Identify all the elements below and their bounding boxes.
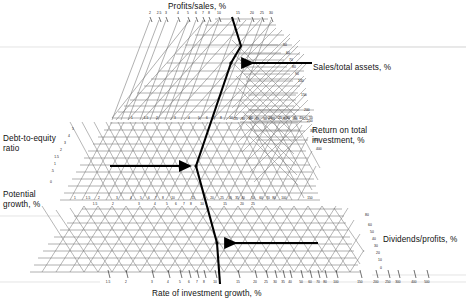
tick-label: 25 bbox=[260, 11, 264, 15]
grid-upper-right-lattice bbox=[232, 28, 312, 185]
tick-label: 8 bbox=[220, 116, 222, 120]
tick-label: 70 bbox=[316, 280, 320, 284]
tick-label: 0 bbox=[50, 180, 52, 184]
tick-label: 60 bbox=[259, 196, 263, 200]
tick-label: 7 bbox=[196, 280, 198, 284]
tick-label: 40 bbox=[288, 280, 292, 284]
tick-label: 1 bbox=[131, 116, 133, 120]
tick-label: 2 bbox=[149, 11, 151, 15]
tick-label: 35 bbox=[281, 280, 285, 284]
tick-label: 3 bbox=[64, 141, 66, 145]
tick-label: 50 bbox=[309, 116, 313, 120]
tick-label: 90 bbox=[295, 72, 299, 76]
tick-label: 5 bbox=[166, 202, 168, 206]
axis-label-potential-growth: Potential growth, % bbox=[3, 190, 40, 210]
axis-label-return-on-investment: Return on total investment, % bbox=[312, 126, 367, 146]
tick-label: 300 bbox=[395, 280, 401, 284]
tick-label: 30 bbox=[273, 280, 277, 284]
tick-label: 30 bbox=[228, 196, 232, 200]
tick-label: 50 bbox=[251, 196, 255, 200]
tick-label: 200 bbox=[304, 108, 310, 112]
tick-label: 20 bbox=[268, 116, 272, 120]
tick-label: 25 bbox=[251, 202, 255, 206]
tick-label: 8 bbox=[190, 202, 192, 206]
tick-label: 60 bbox=[271, 117, 275, 121]
tick-label: 4 bbox=[68, 134, 70, 138]
tick-label: 500 bbox=[424, 280, 430, 284]
tick-label: 15 bbox=[236, 11, 240, 15]
axis-label-profits-sales: Profits/sales, % bbox=[168, 2, 226, 12]
tick-label: 15 bbox=[223, 202, 227, 206]
tick-label: 400 bbox=[411, 280, 417, 284]
tick-label: 7 bbox=[183, 202, 185, 206]
axis-label-rate-of-investment-growth: Rate of investment growth, % bbox=[152, 289, 262, 299]
tick-label: 40 bbox=[372, 237, 376, 241]
tick-label: 50 bbox=[263, 117, 267, 121]
tick-label: 100 bbox=[333, 280, 339, 284]
tick-label: 50 bbox=[283, 43, 287, 47]
tick-label: 3 bbox=[151, 280, 153, 284]
tick-label: 0 bbox=[380, 266, 382, 270]
tick-label: 10 bbox=[213, 280, 217, 284]
tick-label: 80 bbox=[272, 196, 276, 200]
tick-label: 35 bbox=[235, 196, 239, 200]
tick-label: 2 bbox=[112, 202, 114, 206]
tick-label: 150 bbox=[307, 196, 313, 200]
tick-label: 4 bbox=[188, 116, 190, 120]
tick-label: 5 bbox=[198, 116, 200, 120]
tick-label: 4 bbox=[167, 280, 169, 284]
tick-label: 1.5 bbox=[144, 116, 149, 120]
axis-label-sales-total-assets: Sales/total assets, % bbox=[313, 63, 391, 73]
tick-label: 30 bbox=[269, 11, 273, 15]
tick-label: 40 bbox=[241, 196, 245, 200]
tick-label: 6 bbox=[206, 116, 208, 120]
tick-label: 50 bbox=[299, 280, 303, 284]
tick-label: 80 bbox=[323, 280, 327, 284]
tick-label: 6 bbox=[148, 196, 150, 200]
tick-label: 6 bbox=[188, 280, 190, 284]
tick-label: 2 bbox=[125, 280, 127, 284]
tick-label: 70 bbox=[289, 58, 293, 62]
tick-label: 7 bbox=[155, 196, 157, 200]
tick-label: 20 bbox=[376, 251, 380, 255]
tick-label: 1.5 bbox=[86, 196, 91, 200]
tick-label: 15 bbox=[191, 196, 195, 200]
tick-label: 30 bbox=[286, 116, 290, 120]
tick-label: 60 bbox=[368, 223, 372, 227]
tickmarks-top bbox=[150, 17, 273, 22]
nomogram-figure: 22.53456781015202530 5060708090100150200… bbox=[0, 0, 466, 299]
tick-label: .5 bbox=[51, 169, 54, 173]
tick-label: 15 bbox=[236, 280, 240, 284]
tick-label: 5 bbox=[72, 127, 74, 131]
tick-label: 200 bbox=[373, 280, 379, 284]
tick-label: 3 bbox=[138, 202, 140, 206]
tick-label: 25 bbox=[220, 196, 224, 200]
tick-label: 100 bbox=[281, 196, 287, 200]
tick-labels-dividends-profits: 806050403020100 bbox=[365, 213, 382, 270]
tick-label: 1 bbox=[54, 162, 56, 166]
tick-label: 60 bbox=[286, 51, 290, 55]
tick-label: 70 bbox=[266, 196, 270, 200]
tick-label: 25 bbox=[234, 117, 238, 121]
tick-label: 2 bbox=[60, 148, 62, 152]
tick-label: 50 bbox=[370, 230, 374, 234]
tick-label: 6 bbox=[175, 202, 177, 206]
tick-label: 2.5 bbox=[157, 11, 162, 15]
tick-label: 400 bbox=[316, 147, 322, 151]
nomogram-canvas: 22.53456781015202530 5060708090100150200… bbox=[0, 0, 466, 299]
tick-label: 150 bbox=[357, 280, 363, 284]
tick-label: 1.5 bbox=[106, 280, 111, 284]
tick-label: 20 bbox=[253, 280, 257, 284]
tick-label: 120 bbox=[302, 117, 308, 121]
tick-label: 1 bbox=[74, 196, 76, 200]
tick-label: 3 bbox=[116, 196, 118, 200]
tick-label: 10 bbox=[171, 196, 175, 200]
tick-label: 35 bbox=[293, 116, 297, 120]
tick-label: 25 bbox=[264, 280, 268, 284]
tick-label: 3 bbox=[165, 11, 167, 15]
grid-lower-band bbox=[30, 209, 360, 272]
grid-middle-lattice bbox=[70, 122, 320, 200]
tick-label: 1.5 bbox=[54, 155, 59, 159]
tick-label: 2 bbox=[98, 196, 100, 200]
tick-label: 20 bbox=[250, 11, 254, 15]
